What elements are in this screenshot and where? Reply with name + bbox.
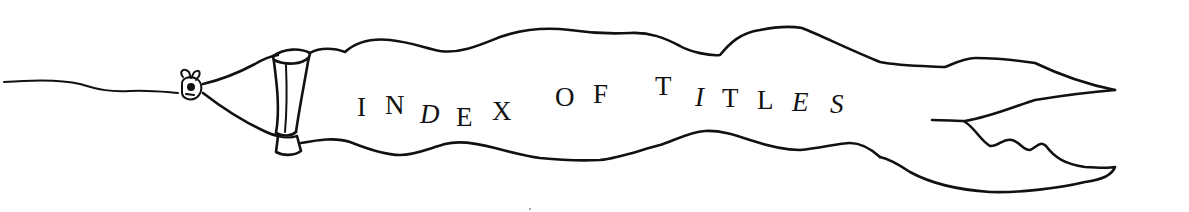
title-letter: I bbox=[694, 82, 706, 112]
title-letter: D bbox=[419, 99, 440, 129]
title-letter: T bbox=[655, 71, 672, 101]
ferrule-band-icon bbox=[273, 50, 310, 155]
string-icon bbox=[4, 80, 178, 93]
title-letter: T bbox=[722, 83, 739, 113]
title-letter: N bbox=[385, 90, 405, 120]
title-letter: L bbox=[757, 85, 774, 115]
title-letter: I bbox=[357, 92, 366, 122]
knot-icon bbox=[181, 70, 201, 99]
banner-title: I N D E X O F T I T L E S bbox=[357, 71, 844, 132]
title-letter: F bbox=[593, 79, 608, 109]
title-letter: O bbox=[555, 82, 575, 112]
scan-speck bbox=[529, 208, 531, 210]
index-of-titles-banner-illustration: I N D E X O F T I T L E S bbox=[0, 0, 1189, 212]
ribbon-tip-icon bbox=[203, 55, 278, 136]
title-letter: S bbox=[830, 89, 844, 119]
title-letter: E bbox=[456, 102, 473, 132]
title-letter: X bbox=[492, 96, 512, 126]
title-letter: E bbox=[791, 87, 809, 117]
